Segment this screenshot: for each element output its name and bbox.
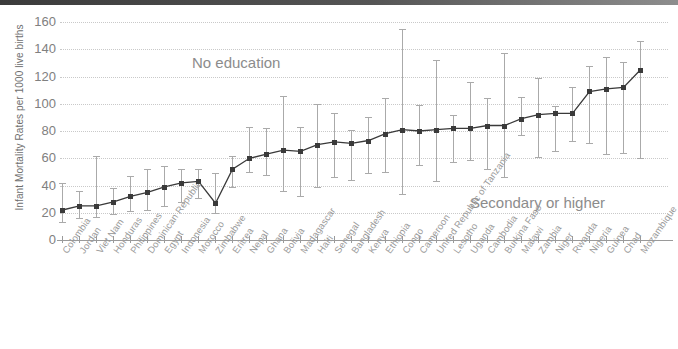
y-tick-label: 100: [22, 97, 56, 110]
error-bar-cap: [433, 181, 440, 182]
data-point-marker: [77, 204, 82, 209]
error-bar-cap: [144, 210, 151, 211]
x-axis-tick: [300, 236, 301, 243]
error-bar: [453, 115, 454, 163]
data-point-marker: [485, 124, 490, 129]
error-bar-cap: [144, 169, 151, 170]
data-point-marker: [128, 194, 133, 199]
data-point-marker: [383, 132, 388, 137]
data-point-marker: [179, 181, 184, 186]
error-bar: [640, 41, 641, 158]
error-bar-cap: [212, 173, 219, 174]
error-bar-cap: [569, 141, 576, 142]
y-tick-label: 40: [22, 179, 56, 192]
error-bar: [470, 82, 471, 160]
gridline: [60, 131, 668, 132]
error-bar: [334, 113, 335, 177]
data-point-marker: [264, 152, 269, 157]
error-bar-cap: [501, 177, 508, 178]
error-bar-cap: [382, 98, 389, 99]
error-bar-cap: [484, 98, 491, 99]
data-point-marker: [247, 156, 252, 161]
gridline: [60, 22, 668, 23]
x-axis-tick: [470, 236, 471, 243]
error-bar-cap: [93, 156, 100, 157]
y-tick-label: 20: [22, 206, 56, 219]
error-bar: [589, 66, 590, 144]
x-axis-tick: [181, 236, 182, 243]
x-axis-tick: [368, 236, 369, 243]
x-axis-tick: [538, 236, 539, 243]
error-bar-cap: [620, 153, 627, 154]
error-bar-cap: [637, 41, 644, 42]
data-point-marker: [519, 117, 524, 122]
x-axis-tick: [283, 236, 284, 243]
error-bar-cap: [382, 172, 389, 173]
data-point-marker: [162, 185, 167, 190]
error-bar-cap: [450, 115, 457, 116]
error-bar-cap: [93, 217, 100, 218]
error-bar-cap: [484, 169, 491, 170]
x-axis-tick: [232, 236, 233, 243]
error-bar-cap: [246, 172, 253, 173]
error-bar-cap: [297, 196, 304, 197]
gridline: [60, 104, 668, 105]
data-point-marker: [621, 85, 626, 90]
error-bar: [300, 127, 301, 196]
y-tick-label: 80: [22, 124, 56, 137]
x-axis-tick: [555, 236, 556, 243]
error-bar: [419, 105, 420, 165]
error-bar-cap: [416, 165, 423, 166]
error-bar: [368, 117, 369, 173]
error-bar-cap: [127, 211, 134, 212]
error-bar-cap: [178, 169, 185, 170]
data-point-marker: [145, 190, 150, 195]
error-bar-cap: [620, 62, 627, 63]
error-bar-cap: [110, 214, 117, 215]
data-point-marker: [502, 124, 507, 129]
error-bar-cap: [229, 187, 236, 188]
error-bar-cap: [161, 206, 168, 207]
error-bar: [402, 29, 403, 194]
y-tick-label: 160: [22, 15, 56, 28]
x-axis-tick: [419, 236, 420, 243]
error-bar-cap: [365, 173, 372, 174]
error-bar-cap: [59, 183, 66, 184]
error-bar-cap: [314, 104, 321, 105]
error-bar-cap: [518, 135, 525, 136]
data-point-marker: [315, 143, 320, 148]
error-bar-cap: [229, 156, 236, 157]
error-bar-cap: [195, 198, 202, 199]
data-point-marker: [451, 126, 456, 131]
error-bar-cap: [59, 222, 66, 223]
data-point-marker: [281, 148, 286, 153]
data-point-marker: [434, 128, 439, 133]
error-bar-cap: [433, 60, 440, 61]
data-point-marker: [60, 208, 65, 213]
error-bar-cap: [263, 175, 270, 176]
x-axis-tick: [147, 236, 148, 243]
x-axis-tick: [487, 236, 488, 243]
error-bar-cap: [416, 105, 423, 106]
x-axis-tick: [130, 236, 131, 243]
annotation-no-education: No education: [192, 54, 280, 71]
data-point-marker: [366, 139, 371, 144]
error-bar: [504, 53, 505, 177]
x-axis-tick: [351, 236, 352, 243]
error-bar-cap: [331, 113, 338, 114]
data-point-marker: [570, 111, 575, 116]
error-bar: [606, 57, 607, 154]
x-axis-tick: [96, 236, 97, 243]
gridline: [60, 186, 668, 187]
y-tick-label: 0: [22, 233, 56, 246]
error-bar-cap: [331, 177, 338, 178]
error-bar-cap: [246, 127, 253, 128]
gridline: [60, 49, 668, 50]
y-tick-label: 60: [22, 151, 56, 164]
data-point-marker: [213, 201, 218, 206]
data-point-marker: [332, 140, 337, 145]
data-point-marker: [638, 68, 643, 73]
x-axis-tick: [606, 236, 607, 243]
x-axis-tick: [402, 236, 403, 243]
error-bar-cap: [314, 187, 321, 188]
